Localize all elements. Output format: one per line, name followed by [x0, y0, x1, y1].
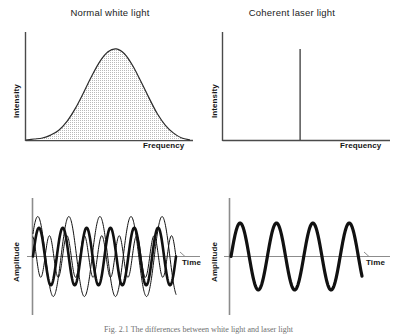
panel-title-coherent-laser-light: Coherent laser light	[212, 7, 372, 18]
figure-container: Normal white light Coherent laser light …	[0, 0, 397, 335]
panel-title-normal-white-light: Normal white light	[30, 7, 190, 18]
x-axis-label-frequency-left: Frequency	[143, 141, 184, 150]
x-axis-label-time-right: Time	[366, 258, 385, 267]
figure-drawing-surface	[0, 0, 397, 335]
axes-coherent-laser-light-spectrum	[223, 32, 391, 141]
y-axis-label-amplitude-left: Amplitude	[12, 242, 21, 282]
y-axis-label-intensity-left: Intensity	[12, 84, 21, 118]
time-axis-tick-left	[180, 252, 185, 257]
y-axis-label-intensity-right: Intensity	[210, 84, 219, 118]
figure-caption: Fig. 2.1 The differences between white l…	[0, 325, 397, 334]
time-axis-tick-right	[364, 252, 369, 257]
axes-normal-white-light-waveform	[27, 198, 200, 315]
x-axis-label-frequency-right: Frequency	[340, 141, 381, 150]
gaussian-spectrum-curve	[26, 49, 190, 140]
y-axis-label-amplitude-right: Amplitude	[210, 242, 219, 282]
x-axis-label-time-left: Time	[182, 258, 201, 267]
